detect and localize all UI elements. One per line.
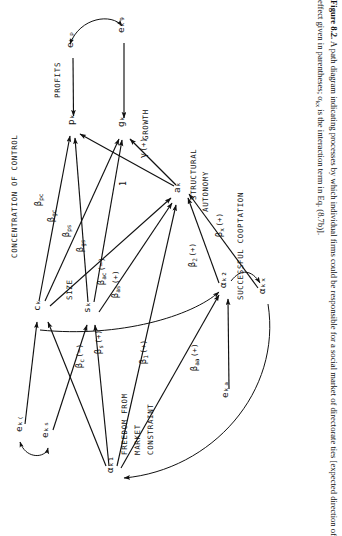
node-e_kg: eₖ₉ [115,16,126,33]
path-label-sub-beta_ps: ps [65,224,73,232]
edge-eka-ak2 [228,299,229,389]
node-c_k: cₖ [31,300,42,311]
construct-structural: STRUCTURAL [189,149,198,201]
path-label-beta_2: β2(+) [187,243,198,267]
edge-eks-sk [53,325,87,430]
path-label-sub-beta_aa: aa [193,358,200,366]
construct-growth: GROWTH [141,109,150,140]
path-label-sub-beta_gc: gc [50,209,58,217]
path-label-sub-beta_s: s [97,345,104,349]
path-label-sub-beta_1: 1 [142,355,149,359]
path-label-beta_pc: βpc [33,193,45,206]
construct-freedom2: MARKET [133,424,142,455]
path-label-sign-beta_aa: (+) [190,344,199,357]
path-label-sub-beta_x: x [218,228,225,232]
construct-freedom1: FREEDOM FROM [120,393,129,455]
construct-profits: PROFITS [53,62,62,98]
node-p_k: pₖ [65,114,76,125]
construct-cooptation: SUCCESSFUL COOPTATION [236,192,245,300]
path-label-beta_s: βs(+) [93,330,104,354]
edge-ak-pk [80,134,174,186]
path-label-symbol-gamma: γ [138,153,148,158]
path-label-sign-beta_as: (+) [111,271,120,284]
edge-ekc-eks-corr [20,442,48,456]
node-a_k: aₖ [171,182,182,193]
edge-ak-gk [130,139,176,185]
node-e_ks: eₖₛ [39,421,50,438]
path-label-beta_c: βc(−) [74,344,85,368]
path-label-sign-beta_2: (+) [188,243,197,256]
path-label-beta_1: β1(+) [138,340,149,364]
path-label-one: 1 [118,181,128,186]
node-alpha_k1: αₖ₁ [104,456,115,473]
path-label-beta_aa: βaa(+) [189,344,200,371]
path-label-beta_as: βas(+) [110,271,121,298]
path-label-gamma: γ(+) [138,138,148,158]
path-label-sign-gamma: (+) [139,138,148,151]
node-alpha_kx: αₖₓ [256,277,267,294]
figure-caption: Figure 8.2. A path diagram indicating pr… [294,0,340,536]
construct-freedom3: CONSTRAINT [146,404,155,456]
path-label-sign-beta_c: (−) [75,344,84,357]
path-label-sub-beta_c: c [78,359,85,363]
figure-page: eₖₚeₖ₉pₖgₖaₖcₖsₖαₖ₂αₖₓeₖ₍eₖₛαₖ₁eₖₐ PROFI… [0,0,342,536]
caption-text-part-1: A path diagram indicating processes by w… [316,0,339,536]
path-label-beta_ac: βac(−) [96,258,107,285]
node-label-layer: eₖₚeₖ₉pₖgₖaₖcₖsₖαₖ₂αₖₓeₖ₍eₖₛαₖ₁eₖₐ [13,16,267,473]
path-label-beta_gs: βgs [75,239,87,252]
caption-text-part-2: is the interaction term in Eq. (8.7b)]. [316,107,326,235]
path-label-sub-beta_pc: pc [37,193,45,201]
edge-ekc-ck [25,322,37,424]
node-s_k: sₖ [81,302,92,313]
node-e_kp: eₖₚ [64,31,75,48]
path-label-beta_ps: βps [61,224,73,237]
path-label-sub-beta_2: 2 [191,258,198,262]
path-label-beta_x: βx(+) [214,213,225,237]
path-label-sign-beta_s: (+) [94,330,103,343]
path-label-sign-beta_x: (+) [215,213,224,226]
path-label-sub-beta_ac: ac [100,272,107,280]
path-label-symbol-one: 1 [118,181,128,186]
node-e_ka: eₖₐ [219,381,230,398]
construct-autonomy: AUTONOMY [201,171,210,212]
construct-concentration: CONCENTRATION OF CONTROL [10,134,19,258]
edge-ekp-pk [73,58,74,116]
path-diagram: eₖₚeₖ₉pₖgₖaₖcₖsₖαₖ₂αₖₓeₖ₍eₖₛαₖ₁eₖₐ PROFI… [0,0,290,536]
node-g_k: gₖ [115,116,126,127]
path-diagram-svg: eₖₚeₖ₉pₖgₖaₖcₖsₖαₖ₂αₖₓeₖ₍eₖₛαₖ₁eₖₐ PROFI… [0,0,290,536]
node-e_kc: eₖ₍ [13,415,24,432]
node-alpha_k2: αₖ₂ [217,271,228,288]
path-label-sub-beta_gs: gs [79,239,87,247]
figure-number: Figure 8.2. [329,0,339,39]
construct-size: SIZE [65,279,74,300]
path-label-sign-beta_ac: (−) [97,258,106,271]
path-label-sign-beta_1: (+) [139,340,148,353]
path-label-beta_gc: βgc [46,209,58,222]
path-label-sub-beta_as: as [114,285,121,293]
